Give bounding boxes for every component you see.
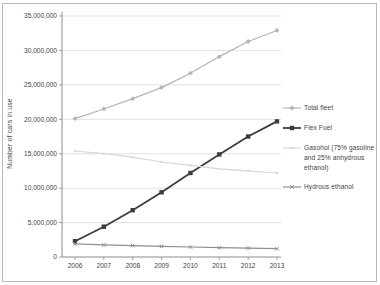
data-point-marker: [101, 107, 106, 112]
y-tick-label: 15,000,000: [24, 150, 57, 157]
y-tick-label: 35,000,000: [24, 12, 57, 19]
data-point-marker: [217, 54, 222, 59]
data-point-marker: [188, 171, 192, 175]
legend-symbol-hydrous-ethanol-icon: [283, 183, 302, 191]
y-tick-label: 30,000,000: [24, 47, 57, 54]
legend-symbol-gasohol-gasoline-and-anhydrous-ethanol-icon: [283, 144, 302, 152]
data-point-marker: [132, 156, 134, 158]
data-point-marker: [247, 170, 249, 172]
y-tick-label: 25,000,000: [24, 81, 57, 88]
series-line-flex-fuel: [75, 121, 277, 241]
y-tick-label: 5,000,000: [28, 219, 58, 226]
y-tick-label: 0: [53, 253, 57, 260]
data-point-marker: [102, 225, 106, 229]
y-tick-label: 20,000,000: [24, 116, 57, 123]
legend-label-total-fleet: Total fleet: [304, 103, 333, 113]
data-point-marker: [159, 85, 164, 90]
data-point-marker: [246, 134, 250, 138]
data-point-marker: [188, 71, 193, 76]
legend-item-total-fleet: Total fleet: [283, 103, 378, 113]
x-tick-label: 2006: [68, 262, 83, 269]
data-point-marker: [218, 168, 220, 170]
x-tick-label: 2013: [270, 262, 285, 269]
legend-label-hydrous-ethanol: Hydrous ethanol: [304, 182, 354, 192]
x-tick-label: 2009: [154, 262, 169, 269]
data-point-marker: [73, 116, 78, 121]
x-tick-label: 2012: [241, 262, 256, 269]
legend-symbol-total-fleet-icon: [283, 104, 302, 112]
series-line-gasohol-gasoline-and-anhydrous-ethanol: [75, 151, 277, 173]
data-point-marker: [131, 208, 135, 212]
data-point-marker: [159, 190, 163, 194]
data-point-marker: [275, 119, 279, 123]
data-point-marker: [276, 172, 278, 174]
data-point-marker: [246, 39, 251, 44]
legend-item-gasohol-gasoline-and-anhydrous-ethanol: Gasohol (75% gasoline and 25% anhydrous …: [283, 143, 378, 173]
data-point-marker: [275, 28, 280, 33]
legend-symbol-flex-fuel-icon: [283, 124, 302, 132]
legend-item-flex-fuel: Flex Fuel: [283, 123, 378, 133]
data-point-marker: [160, 161, 162, 163]
legend-label-gasohol-gasoline-and-anhydrous-ethanol: Gasohol (75% gasoline and 25% anhydrous …: [304, 143, 378, 173]
data-point-marker: [217, 152, 221, 156]
x-tick-label: 2008: [125, 262, 140, 269]
series-line-total-fleet: [75, 31, 277, 119]
data-point-marker: [74, 150, 76, 152]
x-tick-label: 2010: [183, 262, 198, 269]
data-point-marker: [103, 153, 105, 155]
legend-item-hydrous-ethanol: Hydrous ethanol: [283, 182, 378, 192]
x-tick-label: 2011: [212, 262, 227, 269]
x-tick-label: 2007: [97, 262, 112, 269]
legend: Total fleetFlex FuelGasohol (75% gasolin…: [283, 103, 378, 192]
legend-label-flex-fuel: Flex Fuel: [304, 123, 332, 133]
data-point-marker: [130, 96, 135, 101]
y-axis-title: Number of cars in use: [6, 82, 13, 186]
y-tick-label: 10,000,000: [24, 184, 57, 191]
data-point-marker: [189, 164, 191, 166]
